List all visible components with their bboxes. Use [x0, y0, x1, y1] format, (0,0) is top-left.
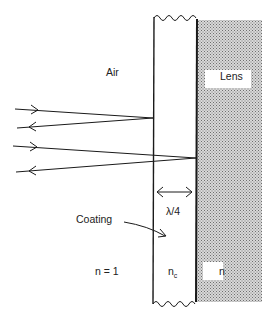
coating-right-boundary [196, 19, 197, 302]
incident-ray-1-arrow-icon [31, 105, 38, 114]
air-label: Air [106, 66, 119, 78]
diagram-canvas [0, 0, 271, 316]
air-index-label: n = 1 [95, 265, 119, 277]
thickness-label: λ/4 [166, 205, 180, 217]
incident-ray-2-arrow-icon [30, 142, 37, 151]
wavy-break-bottom [153, 302, 195, 307]
coating-pointer-arrow-icon [124, 222, 165, 236]
reflected-ray-2 [16, 158, 196, 172]
coating-index-label: nc [168, 265, 177, 279]
coating-left-boundary [153, 17, 154, 304]
incident-ray-2 [13, 146, 196, 158]
incident-ray-1 [15, 109, 153, 118]
reflected-ray-1 [17, 118, 153, 128]
coating-index-subscript: c [174, 272, 178, 279]
lens-region [197, 20, 262, 302]
lens-label: Lens [220, 70, 243, 82]
coating-label: Coating [76, 213, 112, 225]
wavy-break-top [154, 16, 196, 21]
lens-index-label: n [219, 265, 225, 277]
